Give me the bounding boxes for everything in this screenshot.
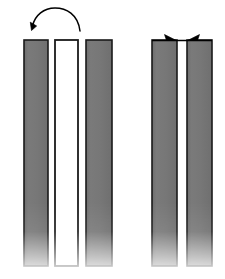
left-bar-1	[24, 40, 48, 266]
figure-canvas	[0, 0, 225, 279]
left-bar-2	[55, 40, 78, 266]
left-bar-3	[86, 40, 112, 266]
right-bar-1	[152, 40, 177, 266]
right-bar-2	[187, 40, 212, 266]
diagram-svg	[0, 0, 225, 279]
left-group	[24, 40, 112, 266]
